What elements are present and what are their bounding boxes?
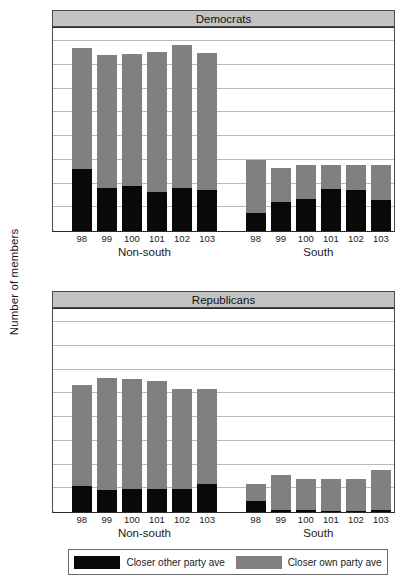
bar-segment-closer-other — [197, 484, 217, 513]
x-axis-group-label: Non-south — [84, 246, 204, 258]
y-axis-tick-mark — [52, 183, 53, 184]
panel-title-republicans: Republicans — [52, 291, 395, 308]
bar-segment-closer-other — [296, 510, 316, 512]
bar-segment-closer-other — [371, 200, 391, 231]
x-axis-tick-label: 103 — [192, 514, 222, 525]
bar-stack — [72, 385, 92, 512]
gridline — [53, 321, 394, 322]
bar-stack — [197, 53, 217, 231]
legend-label-closer-other: Closer other party ave — [126, 557, 224, 568]
bar-segment-closer-other — [97, 188, 117, 231]
bar-segment-closer-own — [122, 54, 142, 186]
x-axis-republicans: 9899100101102103Non-south989910010110210… — [52, 514, 395, 544]
gridline — [53, 369, 394, 370]
chart-legend: Closer other party ave Closer own party … — [68, 549, 388, 575]
legend-label-closer-own: Closer own party ave — [288, 557, 382, 568]
bar-segment-closer-own — [122, 379, 142, 489]
y-axis-tick-label: 100 — [52, 413, 53, 423]
bar-stack — [321, 479, 341, 512]
y-axis-tick-label: 75 — [52, 437, 53, 447]
y-axis-tick-mark — [52, 440, 53, 441]
y-axis-tick-mark — [52, 369, 53, 370]
y-axis-tick-mark — [52, 159, 53, 160]
bar-segment-closer-own — [197, 53, 217, 190]
y-axis-tick-label: 50 — [52, 180, 53, 190]
bar-segment-closer-own — [371, 165, 391, 200]
legend-swatch-icon-closer-other — [74, 556, 120, 569]
bar-segment-closer-other — [246, 213, 266, 231]
y-axis-tick-mark — [52, 321, 53, 322]
bar-segment-closer-own — [296, 479, 316, 510]
bar-segment-closer-other — [147, 192, 167, 231]
bar-segment-closer-other — [197, 190, 217, 231]
bar-stack — [97, 55, 117, 231]
y-axis-tick-mark — [52, 64, 53, 65]
bar-stack — [122, 379, 142, 512]
bar-stack — [271, 168, 291, 231]
gridline — [53, 345, 394, 346]
y-axis-tick-label: 175 — [52, 61, 53, 71]
y-axis-tick-mark — [52, 230, 53, 231]
y-axis-tick-mark — [52, 88, 53, 89]
y-axis-tick-label: 150 — [52, 85, 53, 95]
plot-area-republicans: 0255075100125150175200 — [52, 308, 395, 513]
bar-stack — [321, 165, 341, 231]
y-axis-tick-label: 150 — [52, 366, 53, 376]
bar-segment-closer-own — [72, 385, 92, 487]
y-axis-tick-label: 25 — [52, 484, 53, 494]
y-axis-tick-label: 200 — [52, 318, 53, 328]
bar-segment-closer-own — [97, 55, 117, 188]
bar-segment-closer-own — [346, 165, 366, 191]
bar-segment-closer-other — [271, 202, 291, 231]
legend-item-closer-other: Closer other party ave — [74, 556, 224, 569]
legend-swatch-icon-closer-own — [236, 556, 282, 569]
y-axis-tick-mark — [52, 135, 53, 136]
bar-segment-closer-other — [122, 186, 142, 231]
gridline — [53, 40, 394, 41]
bar-segment-closer-other — [147, 489, 167, 512]
y-axis-tick-mark — [52, 111, 53, 112]
y-axis-tick-label: 200 — [52, 37, 53, 47]
bar-stack — [97, 378, 117, 512]
bar-stack — [371, 165, 391, 231]
bar-segment-closer-own — [147, 52, 167, 192]
x-axis-group-label: South — [258, 527, 378, 539]
bar-segment-closer-other — [172, 489, 192, 512]
bar-stack — [172, 389, 192, 512]
bar-stack — [296, 479, 316, 512]
y-axis-tick-label: 125 — [52, 108, 53, 118]
bar-segment-closer-other — [97, 490, 117, 512]
bar-segment-closer-other — [72, 169, 92, 231]
bar-stack — [346, 165, 366, 231]
x-axis-group-label: South — [258, 246, 378, 258]
y-axis-tick-mark — [52, 40, 53, 41]
bar-segment-closer-own — [271, 168, 291, 201]
bar-segment-closer-other — [271, 510, 291, 512]
y-axis-tick-mark — [52, 416, 53, 417]
bar-segment-closer-own — [346, 479, 366, 511]
bar-segment-closer-own — [172, 45, 192, 188]
legend-item-closer-own: Closer own party ave — [236, 556, 382, 569]
y-axis-tick-mark — [52, 206, 53, 207]
bar-segment-closer-other — [346, 511, 366, 512]
bar-segment-closer-own — [296, 165, 316, 199]
bar-stack — [346, 479, 366, 512]
bar-segment-closer-own — [72, 48, 92, 170]
chart-figure: Number of members Democrats 025507510012… — [0, 0, 405, 582]
bar-stack — [72, 48, 92, 231]
bar-stack — [296, 165, 316, 231]
bar-segment-closer-own — [246, 484, 266, 501]
bar-segment-closer-own — [271, 475, 291, 510]
bar-stack — [122, 54, 142, 231]
y-axis-tick-label: 125 — [52, 389, 53, 399]
bar-segment-closer-own — [172, 389, 192, 490]
y-axis-tick-mark — [52, 392, 53, 393]
bar-segment-closer-other — [296, 199, 316, 231]
y-axis-tick-label: 75 — [52, 156, 53, 166]
bar-segment-closer-other — [321, 511, 341, 512]
y-axis-tick-mark — [52, 464, 53, 465]
bar-stack — [246, 160, 266, 231]
y-axis-tick-label: 100 — [52, 132, 53, 142]
y-axis-tick-label: 50 — [52, 461, 53, 471]
x-axis-tick-label: 103 — [192, 233, 222, 244]
